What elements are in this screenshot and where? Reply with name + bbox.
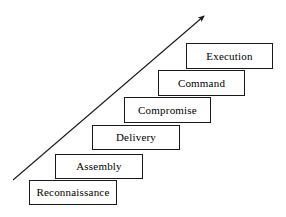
step-box-execution: Execution — [186, 43, 273, 69]
step-box-assembly: Assembly — [55, 154, 143, 179]
step-box-command: Command — [158, 70, 245, 96]
kill-chain-diagram: Reconnaissance Assembly Delivery Comprom… — [0, 0, 286, 217]
step-label-execution: Execution — [206, 51, 252, 62]
step-box-compromise: Compromise — [124, 97, 211, 123]
step-box-delivery: Delivery — [92, 125, 180, 150]
step-label-command: Command — [178, 78, 225, 89]
step-label-reconnaissance: Reconnaissance — [36, 187, 109, 198]
step-label-delivery: Delivery — [116, 132, 156, 143]
step-label-assembly: Assembly — [76, 161, 122, 172]
step-label-compromise: Compromise — [138, 105, 197, 116]
step-box-reconnaissance: Reconnaissance — [29, 180, 117, 205]
